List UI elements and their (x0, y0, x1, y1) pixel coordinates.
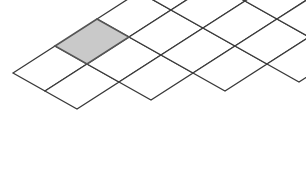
isometric-grid (0, 0, 306, 186)
grid-cells-layer (13, 0, 306, 109)
figure-canvas (0, 0, 306, 186)
